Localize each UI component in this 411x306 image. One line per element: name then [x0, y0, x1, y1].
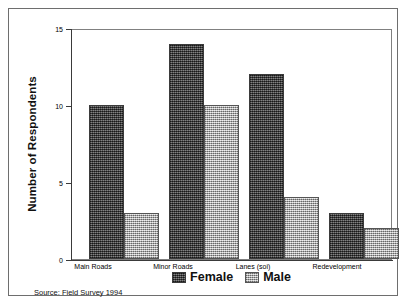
figure-frame: Number of Respondents 15 10 5 0 — [8, 8, 398, 296]
y-axis-line — [71, 29, 72, 261]
legend-label-male: Male — [263, 271, 291, 284]
legend-swatch-male-icon — [245, 272, 259, 283]
bar-female-lanes-soi — [249, 74, 284, 259]
x-tick-label-redevelopment: Redevelopment — [293, 263, 381, 271]
figure-container: Number of Respondents 15 10 5 0 — [0, 0, 411, 306]
bar-male-lanes-soi — [284, 197, 319, 259]
chart-legend: Female Male — [71, 271, 392, 284]
y-tick-label-15: 15 — [43, 26, 63, 33]
x-axis-line — [71, 260, 393, 261]
plot-area — [71, 29, 392, 260]
bar-female-minor-roads — [169, 44, 204, 259]
bar-female-redevelopment — [329, 213, 364, 259]
bar-male-main-roads — [124, 213, 159, 259]
y-tick-label-10: 10 — [43, 103, 63, 110]
legend-item-male: Male — [245, 271, 291, 284]
source-note: Source: Field Survey 1994 — [34, 288, 122, 297]
legend-swatch-female-icon — [172, 272, 186, 283]
y-axis-title: Number of Respondents — [26, 44, 38, 244]
y-tick-label-5: 5 — [43, 180, 63, 187]
legend-label-female: Female — [190, 271, 233, 284]
legend-item-female: Female — [172, 271, 233, 284]
bar-female-main-roads — [89, 105, 124, 259]
bar-male-redevelopment — [364, 228, 399, 259]
x-tick-label-main-roads: Main Roads — [53, 263, 133, 271]
bar-male-minor-roads — [204, 105, 239, 259]
